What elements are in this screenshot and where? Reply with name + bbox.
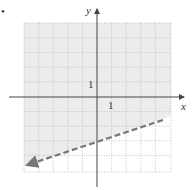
y-axis-label: y bbox=[85, 4, 91, 16]
inequality-graph: • y x 1 1 bbox=[0, 0, 195, 190]
y-tick-label: 1 bbox=[88, 78, 94, 90]
x-tick-label: 1 bbox=[108, 99, 114, 111]
x-axis-label: x bbox=[180, 100, 186, 112]
bullet: • bbox=[1, 5, 5, 17]
